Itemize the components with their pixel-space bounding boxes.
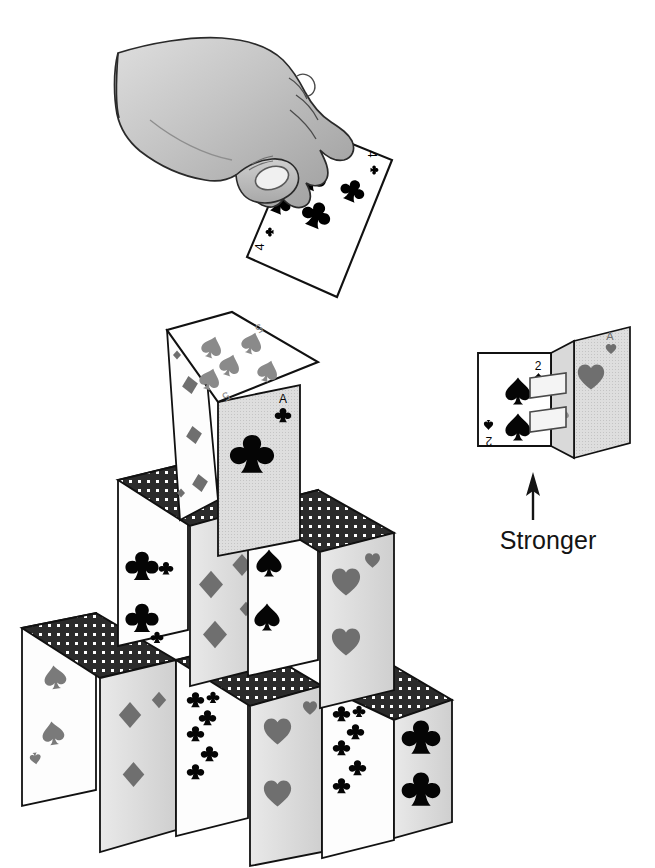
panel-hearts: [320, 533, 394, 708]
svg-text:A: A: [279, 392, 287, 406]
lower-slot: [530, 407, 566, 432]
panel-clubs-right: [394, 700, 452, 838]
rank-2-bottom: 2: [485, 434, 492, 448]
illustration-canvas: 4 4: [0, 0, 655, 868]
rank-a-top: A: [606, 330, 614, 342]
upper-slot: [530, 373, 566, 398]
panel-diamonds: [100, 660, 176, 852]
rank-2-top: 2: [535, 359, 542, 373]
card-ace-of-hearts: [574, 327, 630, 458]
svg-text:4: 4: [252, 243, 267, 250]
svg-text:4: 4: [365, 150, 380, 157]
stronger-label: Stronger: [468, 528, 628, 553]
